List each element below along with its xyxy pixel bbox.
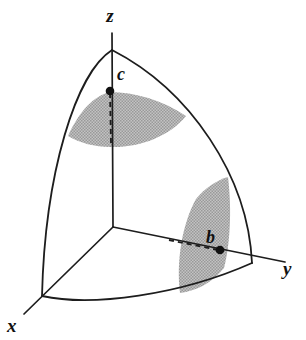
cone-surface-shading (68, 92, 186, 147)
coordinate-diagram: z y x c b (0, 0, 306, 340)
x-axis (24, 227, 113, 314)
point-b-marker (216, 246, 225, 255)
point-c-label: c (117, 64, 125, 84)
point-b-label: b (206, 227, 215, 247)
z-axis-label: z (105, 5, 114, 26)
y-axis-label: y (281, 258, 292, 279)
figure-container: z y x c b (0, 0, 306, 340)
z-axis (112, 33, 113, 227)
cone-region-c (68, 92, 186, 147)
left-boundary-arc (42, 50, 112, 296)
point-c-marker (106, 87, 115, 96)
x-axis-label: x (6, 315, 17, 336)
